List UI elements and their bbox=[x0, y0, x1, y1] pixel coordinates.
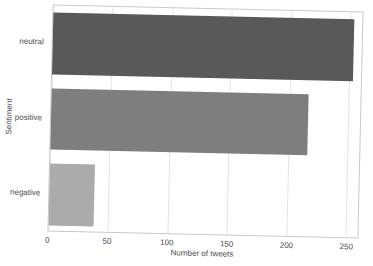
x-tick-label-100: 100 bbox=[160, 238, 174, 247]
x-tick-label-150: 150 bbox=[220, 239, 234, 248]
screenshot-canvas: Sentiment neutralpositivenegative 050100… bbox=[0, 0, 373, 266]
x-tick-labels: 050100150200250 bbox=[3, 0, 373, 4]
y-tick-label-neutral: neutral bbox=[2, 36, 48, 47]
x-tick-label-250: 250 bbox=[339, 242, 353, 251]
bar-neutral bbox=[52, 13, 354, 81]
bar-positive bbox=[50, 88, 308, 155]
x-axis-label: Number of tweets bbox=[171, 248, 234, 258]
y-tick-label-positive: positive bbox=[0, 112, 46, 123]
gridlines bbox=[54, 6, 363, 13]
x-tick-label-50: 50 bbox=[102, 237, 111, 246]
bar-negative bbox=[49, 164, 96, 227]
x-tick-label-0: 0 bbox=[45, 235, 50, 244]
plot-area bbox=[47, 5, 363, 239]
x-tick-label-200: 200 bbox=[280, 241, 294, 250]
y-tick-label-negative: negative bbox=[0, 187, 44, 198]
sentiment-bar-chart: Sentiment neutralpositivenegative 050100… bbox=[0, 0, 373, 266]
bars bbox=[54, 6, 363, 13]
y-tick-labels: neutralpositivenegative bbox=[3, 0, 373, 4]
